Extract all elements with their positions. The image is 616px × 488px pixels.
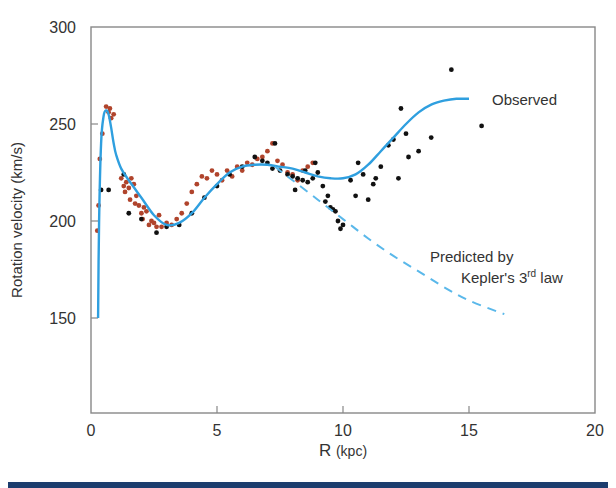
observed-curve <box>98 99 469 318</box>
kepler-prediction-line <box>275 167 504 314</box>
scatter-black <box>99 67 484 235</box>
x-tick-label: 15 <box>460 422 478 439</box>
y-tick-label: 250 <box>49 116 76 133</box>
bottom-bar <box>8 482 608 488</box>
y-tick-label: 300 <box>49 19 76 36</box>
x-tick-label: 0 <box>87 422 96 439</box>
x-axis-label: R (kpc) <box>319 441 367 460</box>
x-tick-label: 20 <box>586 422 604 439</box>
y-tick-label: 150 <box>49 310 76 327</box>
observed-label: Observed <box>492 91 557 108</box>
predicted-label-line2: Kepler's 3rd law <box>461 268 563 286</box>
x-tick-label: 10 <box>334 422 352 439</box>
x-tick-label: 5 <box>213 422 222 439</box>
y-axis-label: Rotation velocity (km/s) <box>8 142 25 298</box>
y-tick-label: 200 <box>49 213 76 230</box>
series-layer <box>95 67 504 318</box>
annotations: ObservedPredicted byKepler's 3rd law <box>430 91 563 286</box>
x-axis-ticks: 05101520 <box>87 406 604 439</box>
predicted-label-line1: Predicted by <box>430 248 514 265</box>
